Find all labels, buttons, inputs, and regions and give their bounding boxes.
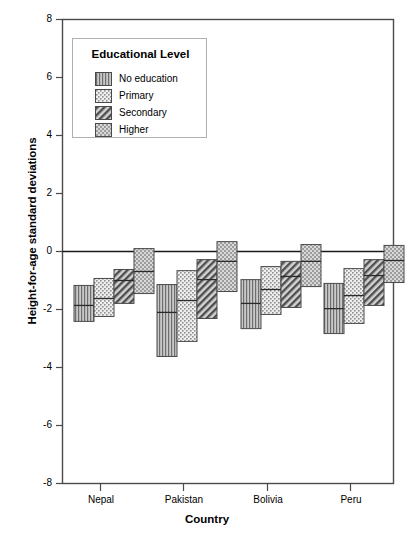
legend-item-secondary[interactable]: Secondary	[95, 105, 167, 120]
x-tick-label-pakistan: Pakistan	[139, 494, 229, 505]
legend-label-no-education: No education	[119, 73, 178, 84]
x-tick-label-bolivia: Bolivia	[223, 494, 313, 505]
box-bolivia-no-education	[241, 280, 261, 329]
box-peru-no-education	[324, 283, 344, 333]
box-bolivia-higher	[301, 245, 321, 287]
legend: Educational Level No education Primary S…	[72, 38, 207, 138]
legend-title: Educational Level	[73, 48, 208, 60]
box-pakistan-higher	[217, 242, 237, 292]
y-axis-title: Height-for-age standard deviations	[26, 101, 38, 361]
boxes-layer	[74, 242, 404, 357]
box-bolivia-secondary	[281, 261, 301, 307]
legend-label-secondary: Secondary	[119, 107, 167, 118]
box-peru-primary	[344, 269, 364, 324]
box-nepal-primary	[94, 278, 114, 316]
y-tick-label: 6	[26, 71, 52, 82]
y-tick-label: -4	[26, 361, 52, 372]
box-nepal-secondary	[114, 269, 134, 303]
box-pakistan-primary	[177, 271, 197, 342]
y-axis-ticks	[56, 20, 63, 484]
x-tick-label-nepal: Nepal	[56, 494, 146, 505]
x-axis-title: Country	[0, 513, 414, 525]
legend-item-primary[interactable]: Primary	[95, 88, 153, 103]
y-tick-label: -8	[26, 477, 52, 488]
box-group-bolivia	[241, 245, 321, 329]
box-pakistan-secondary	[197, 260, 217, 319]
legend-swatch-secondary	[95, 106, 112, 120]
legend-label-primary: Primary	[119, 90, 153, 101]
legend-swatch-no-education	[95, 72, 112, 86]
box-peru-higher	[384, 245, 404, 282]
x-tick-label-peru: Peru	[306, 494, 396, 505]
chart-figure: 8 6 4 2 0 -2 -4 -6 -8 Nepal Pakistan Bol…	[0, 0, 414, 546]
x-axis-ticks	[101, 484, 351, 492]
box-pakistan-no-education	[157, 285, 177, 357]
legend-swatch-higher	[95, 123, 112, 137]
y-tick-label: -6	[26, 419, 52, 430]
y-tick-label: 8	[26, 13, 52, 24]
box-peru-secondary	[364, 260, 384, 306]
legend-swatch-primary	[95, 89, 112, 103]
box-group-nepal	[74, 249, 154, 322]
box-bolivia-primary	[261, 267, 281, 315]
legend-item-higher[interactable]: Higher	[95, 122, 148, 137]
chart-canvas	[0, 0, 414, 546]
box-nepal-no-education	[74, 285, 94, 321]
box-nepal-higher	[134, 249, 154, 294]
legend-label-higher: Higher	[119, 124, 148, 135]
box-group-peru	[324, 245, 404, 333]
box-group-pakistan	[157, 242, 237, 357]
legend-item-no-education[interactable]: No education	[95, 71, 178, 86]
